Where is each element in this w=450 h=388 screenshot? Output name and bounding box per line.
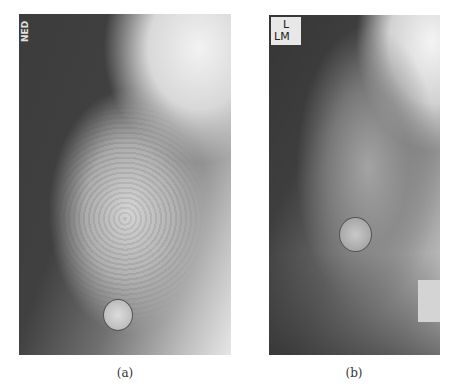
skin-marker-a — [103, 299, 133, 331]
caption-a: (a) — [105, 366, 145, 380]
side-text-a: NED — [20, 21, 30, 42]
view-label: L LM — [271, 17, 301, 45]
mammogram-panel-a: NED — [19, 14, 231, 355]
label-line-2: LM — [274, 31, 298, 43]
mammogram-panel-b: L LM — [269, 15, 440, 355]
edge-structure — [418, 280, 440, 322]
caption-b: (b) — [334, 366, 374, 380]
skin-marker-b — [339, 217, 372, 252]
